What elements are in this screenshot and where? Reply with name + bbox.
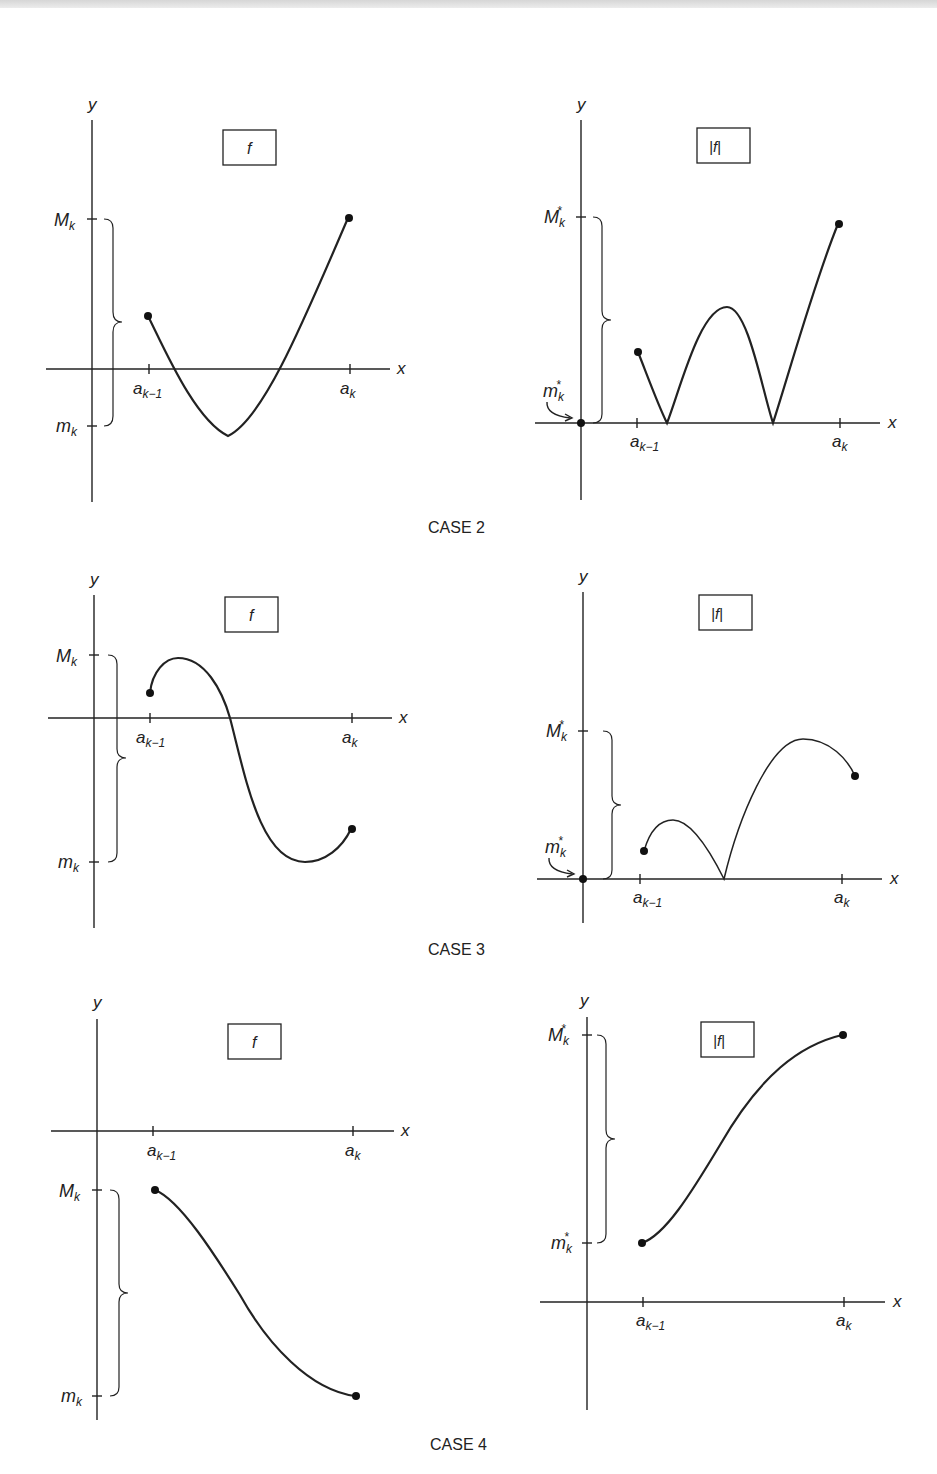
a-k-minus-1-label: ak−1 (136, 728, 165, 750)
function-curve (644, 739, 855, 879)
case4-left-graph: y x f Mk mk ak−1 ak (51, 993, 410, 1420)
function-box (697, 128, 750, 163)
case-3-caption: CASE 3 (428, 941, 485, 958)
function-box (699, 595, 752, 630)
case2-right-graph: y x |f| Mk* mk* ak−1 ak (535, 95, 897, 500)
M-k-star-label: Mk* (544, 204, 566, 230)
function-curve (150, 658, 351, 862)
function-curve (155, 1190, 355, 1396)
m-k-label: mk (56, 416, 78, 439)
function-curve (148, 218, 348, 436)
y-axis-label: y (89, 570, 100, 589)
case-2-caption: CASE 2 (428, 519, 485, 536)
brace (104, 219, 122, 426)
m-k-label: mk (58, 852, 80, 875)
a-k-label: ak (342, 728, 358, 750)
brace (597, 1035, 615, 1243)
function-curve (638, 224, 838, 423)
y-axis-label: y (579, 991, 590, 1010)
y-axis-label: y (87, 95, 98, 114)
case3-right-graph: y x |f| Mk* mk* ak−1 ak (537, 567, 899, 923)
y-axis-label: y (576, 95, 587, 114)
a-k-minus-1-label: ak−1 (636, 1311, 665, 1333)
function-box-label: |f| (711, 605, 723, 622)
a-k-label: ak (832, 432, 848, 454)
x-axis-label: x (892, 1292, 902, 1311)
M-k-star-label: Mk* (548, 1022, 570, 1048)
x-axis-label: x (887, 413, 897, 432)
function-curve (642, 1035, 842, 1243)
a-k-label: ak (345, 1141, 361, 1163)
a-k-label: ak (340, 379, 356, 401)
brace (110, 1190, 128, 1396)
M-k-label: Mk (56, 646, 78, 669)
brace (603, 731, 621, 879)
m-k-star-label: mk* (551, 1230, 573, 1256)
m-k-star-label: mk* (543, 378, 565, 404)
case-4-caption: CASE 4 (430, 1436, 487, 1453)
a-k-minus-1-label: ak−1 (133, 379, 162, 401)
case2-left-graph: y x f Mk mk ak−1 ak (46, 95, 406, 502)
x-axis-label: x (889, 869, 899, 888)
M-k-label: Mk (54, 210, 76, 233)
a-k-minus-1-label: ak−1 (630, 432, 659, 454)
function-box (701, 1022, 754, 1057)
case4-right-graph: y x |f| Mk* mk* ak−1 ak (540, 991, 902, 1410)
function-box-label: |f| (713, 1032, 725, 1049)
x-axis-label: x (396, 359, 406, 378)
M-k-label: Mk (59, 1181, 81, 1204)
brace (108, 655, 126, 862)
y-axis-label: y (578, 567, 589, 586)
brace (593, 217, 611, 423)
m-k-label: mk (61, 1386, 83, 1409)
m-k-star-label: mk* (545, 834, 567, 860)
x-axis-label: x (400, 1121, 410, 1140)
a-k-label: ak (836, 1311, 852, 1333)
figure-canvas: y x f Mk mk ak−1 ak y x |f| Mk* mk* a (0, 0, 937, 1474)
M-k-star-label: Mk* (546, 718, 568, 744)
x-axis-label: x (398, 708, 408, 727)
a-k-minus-1-label: ak−1 (633, 888, 662, 910)
a-k-minus-1-label: ak−1 (147, 1141, 176, 1163)
y-axis-label: y (92, 993, 103, 1012)
function-box-label: |f| (709, 138, 721, 155)
case3-left-graph: y x f Mk mk ak−1 ak (48, 570, 408, 928)
a-k-label: ak (834, 888, 850, 910)
